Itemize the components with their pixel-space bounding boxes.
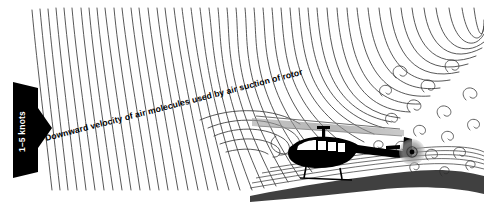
cabin-window (328, 142, 336, 151)
streamline-canvas: 1–5 knots Downward velocity of air molec… (0, 0, 484, 207)
cabin-window (338, 143, 345, 152)
tail-rotor-hub (410, 150, 415, 155)
cabin-window (318, 141, 326, 150)
airflow-diagram: 1–5 knots Downward velocity of air molec… (0, 0, 484, 207)
wind-speed-label: 1–5 knots (17, 111, 27, 152)
rotor-hub (317, 126, 330, 129)
